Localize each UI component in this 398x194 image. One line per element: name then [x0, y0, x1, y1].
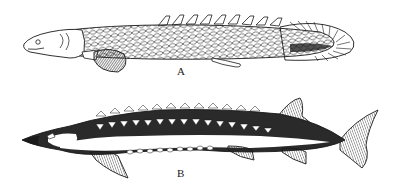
fish-b-sturgeon — [22, 98, 378, 178]
pelvic-fin-a — [212, 58, 241, 67]
caudal-fin-b — [340, 110, 378, 168]
panel-label-b: B — [177, 168, 184, 179]
fish-illustrations — [0, 0, 398, 194]
snout-b — [22, 136, 40, 146]
fish-a-bichir — [24, 15, 354, 72]
pectoral-fin-a — [94, 49, 126, 72]
panel-label-a: A — [177, 66, 185, 77]
head-a — [24, 29, 85, 58]
anal-fin-b — [282, 148, 306, 164]
pectoral-fin-b — [90, 152, 128, 179]
dorsal-finlets — [158, 15, 282, 26]
figure: A B — [0, 0, 398, 194]
